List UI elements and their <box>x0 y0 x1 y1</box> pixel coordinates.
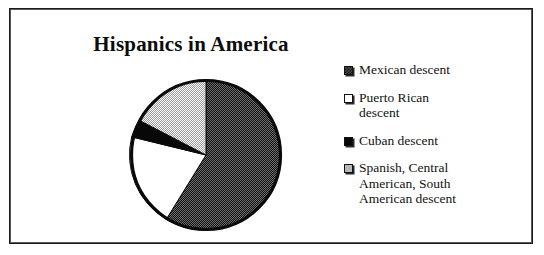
legend-item-label: Cuban descent <box>359 133 438 149</box>
chart-title: Hispanics in America <box>41 32 341 57</box>
black-swatch-icon <box>344 137 353 146</box>
light-gray-swatch-icon <box>344 164 353 173</box>
legend-item-cuban: Cuban descent <box>344 133 534 149</box>
legend-item-label: Spanish, CentralAmerican, SouthAmerican … <box>359 160 456 207</box>
pie-chart-svg <box>129 78 283 232</box>
legend-item-mexican: Mexican descent <box>344 62 534 78</box>
legend-item-puerto-rican: Puerto Ricandescent <box>344 90 534 121</box>
pie-chart <box>129 78 283 232</box>
chart-page: Hispanics in America <box>0 0 544 255</box>
dark-dither-swatch-icon <box>344 66 353 75</box>
chart-legend: Mexican descent Puerto Ricandescent Cuba… <box>344 62 534 207</box>
legend-item-spanish-central-south-american: Spanish, CentralAmerican, SouthAmerican … <box>344 160 534 207</box>
legend-item-label: Puerto Ricandescent <box>359 90 429 121</box>
white-swatch-icon <box>344 94 353 103</box>
legend-item-label: Mexican descent <box>359 62 450 78</box>
figure-frame: Hispanics in America <box>9 8 533 244</box>
